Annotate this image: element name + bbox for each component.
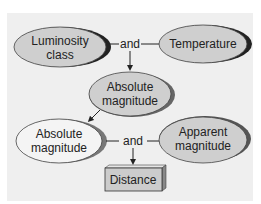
svg-text:Absolute: Absolute xyxy=(107,80,154,94)
node-temperature: Temperature xyxy=(159,25,252,63)
svg-text:Temperature: Temperature xyxy=(169,37,237,51)
svg-text:magnitude: magnitude xyxy=(31,141,87,155)
svg-text:magnitude: magnitude xyxy=(102,94,158,108)
node-apparent-magnitude: Apparent magnitude xyxy=(159,116,251,163)
svg-text:Apparent: Apparent xyxy=(179,125,228,139)
node-distance: Distance xyxy=(105,165,166,191)
node-luminosity-class: Luminosity class xyxy=(14,27,111,67)
svg-text:Luminosity: Luminosity xyxy=(31,34,88,48)
flow-diagram: Luminosity class and Temperature Absolut… xyxy=(0,0,261,204)
svg-text:magnitude: magnitude xyxy=(175,139,231,153)
and-connector-top: and xyxy=(120,37,140,51)
and-connector-bottom: and xyxy=(123,134,143,148)
node-absolute-magnitude-top: Absolute magnitude xyxy=(89,72,175,117)
node-absolute-magnitude-bottom: Absolute magnitude xyxy=(16,119,107,163)
svg-text:Absolute: Absolute xyxy=(36,127,83,141)
svg-text:Distance: Distance xyxy=(110,173,157,187)
svg-text:class: class xyxy=(46,48,73,62)
